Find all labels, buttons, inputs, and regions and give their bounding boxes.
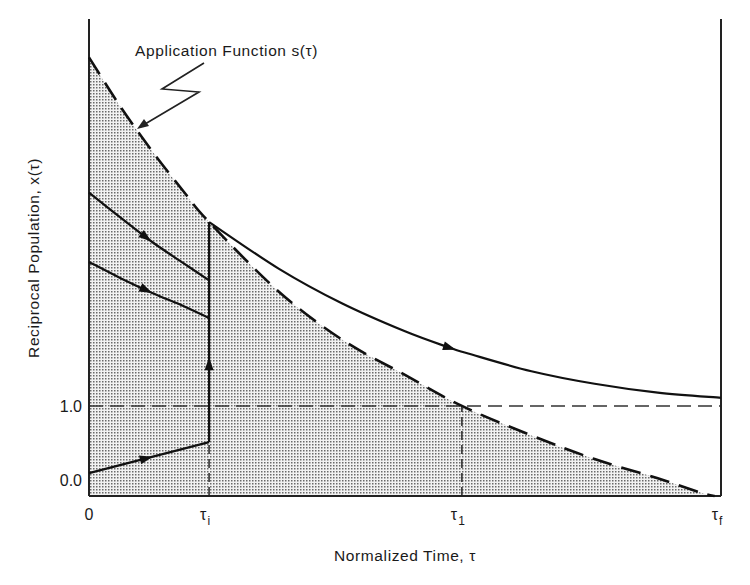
x-tick-label-0: 0 [85, 506, 94, 523]
direction-arrow-icon [442, 342, 457, 354]
y-tick-label-0: 0.0 [60, 472, 82, 489]
x-tick-label-1: τi [200, 506, 210, 528]
shaded-area-under-application-function [89, 57, 715, 496]
x-tick-label-2: τ1 [451, 506, 465, 528]
diagram-canvas: Application Function s(τ) 0τiτ1τf 0.01.0… [0, 0, 750, 585]
x-axis-label: Normalized Time, τ [334, 547, 476, 564]
shaded-region [89, 57, 715, 496]
y-axis-label: Reciprocal Population, x(τ) [25, 158, 42, 358]
x-tick-labels: 0τiτ1τf [85, 506, 723, 528]
callout-zigzag [140, 63, 204, 127]
x-tick-label-3: τf [712, 506, 723, 528]
annotation-callout: Application Function s(τ) [135, 42, 318, 129]
y-tick-labels: 0.01.0 [60, 398, 82, 489]
y-tick-label-1: 1.0 [60, 398, 82, 415]
annotation-text: Application Function s(τ) [135, 42, 318, 59]
callout-arrowhead-icon [137, 119, 149, 129]
